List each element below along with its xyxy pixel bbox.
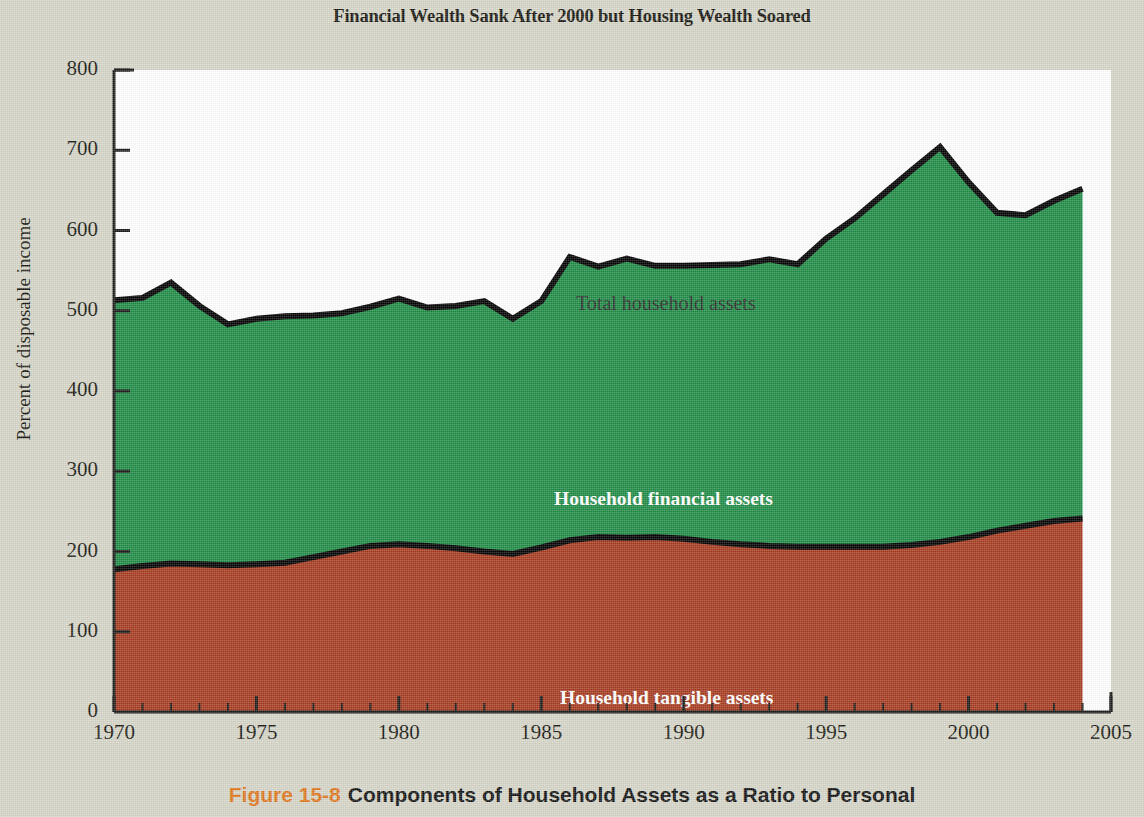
x-tick-label-1995: 1995 [781,720,871,745]
x-tick-label-2005: 2005 [1066,720,1144,745]
plot-area: Total household assets Household financi… [114,70,1111,712]
y-tick-label-700: 700 [28,136,98,161]
caption-figure-number: Figure 15-8 [229,783,341,806]
x-tick-label-1985: 1985 [496,720,586,745]
figure-root: Financial Wealth Sank After 2000 but Hou… [0,0,1144,817]
x-tick-label-1970: 1970 [69,720,159,745]
figure-caption: Figure 15-8Components of Household Asset… [0,783,1144,807]
x-tick-label-1980: 1980 [354,720,444,745]
x-tick-label-1990: 1990 [639,720,729,745]
y-tick-label-400: 400 [28,377,98,402]
series-label-total: Total household assets [576,292,756,315]
series-label-financial: Household financial assets [554,488,773,510]
caption-text: Components of Household Assets as a Rati… [348,783,915,806]
y-tick-label-500: 500 [28,297,98,322]
y-tick-label-600: 600 [28,217,98,242]
chart-title: Financial Wealth Sank After 2000 but Hou… [0,6,1144,27]
chart-svg [114,70,1111,712]
x-tick-label-1975: 1975 [211,720,301,745]
y-tick-label-200: 200 [28,538,98,563]
series-label-tangible: Household tangible assets [560,687,773,709]
y-tick-label-800: 800 [28,56,98,81]
x-tick-label-2000: 2000 [924,720,1014,745]
y-tick-label-100: 100 [28,618,98,643]
y-axis-title: Percent of disposable income [13,109,35,549]
y-tick-label-300: 300 [28,457,98,482]
